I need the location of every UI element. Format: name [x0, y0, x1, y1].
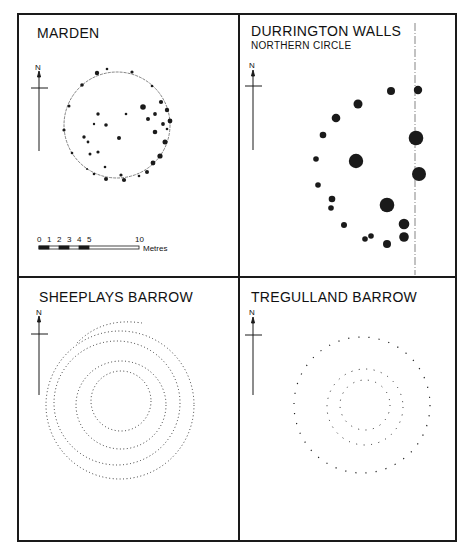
scale-tick-10: 10	[135, 235, 144, 244]
scale-unit: Metres	[143, 244, 167, 253]
north-arrow-icon	[31, 316, 48, 395]
tregulland-plan	[239, 277, 457, 542]
concentric-rings	[46, 322, 194, 479]
scale-tick-1: 1	[47, 235, 51, 244]
scale-tick-3: 3	[67, 235, 71, 244]
scale-tick-0: 0	[37, 235, 41, 244]
panel-durrington: DURRINGTON WALLS NORTHERN CIRCLE N	[239, 13, 457, 276]
post-holes	[313, 86, 426, 248]
scale-bar	[39, 246, 139, 249]
post-holes	[62, 68, 172, 182]
north-arrow-icon	[245, 317, 262, 395]
scale-tick-4: 4	[77, 235, 81, 244]
stake-rings	[294, 337, 430, 473]
scale-tick-2: 2	[57, 235, 61, 244]
north-arrow-icon	[31, 71, 48, 151]
durrington-plan	[239, 13, 457, 276]
north-arrow-icon	[245, 70, 262, 150]
panel-sheeplays: SHEEPLAYS BARROW N	[17, 277, 238, 542]
inner-rings	[327, 369, 403, 445]
scale-tick-5: 5	[87, 235, 91, 244]
panel-marden: MARDEN N 0 1	[17, 13, 238, 276]
sheeplays-plan	[17, 277, 238, 542]
panel-tregulland: TREGULLAND BARROW N	[239, 277, 457, 542]
